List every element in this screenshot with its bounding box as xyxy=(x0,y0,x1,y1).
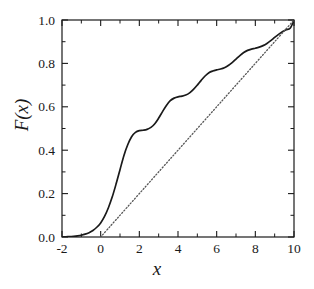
y-tick-label: 0.2 xyxy=(38,186,55,201)
x-tick-label: 2 xyxy=(136,241,143,256)
y-tick-label: 0.0 xyxy=(38,230,55,245)
x-axis-ticks xyxy=(62,20,294,237)
y-tick-label: 1.0 xyxy=(38,13,55,28)
series-linear-reference xyxy=(101,20,294,237)
x-tick-label: 10 xyxy=(287,241,301,256)
y-tick-label: 0.6 xyxy=(38,99,55,114)
x-tick-label: 4 xyxy=(175,241,182,256)
plot-frame xyxy=(62,20,294,237)
data-series-group xyxy=(62,20,294,237)
y-tick-label: 0.8 xyxy=(38,56,55,71)
figure: -20246810 0.00.20.40.60.81.0 F(x) x xyxy=(0,0,314,289)
chart-plot-area: -20246810 0.00.20.40.60.81.0 xyxy=(0,0,314,289)
y-axis-tick-labels: 0.00.20.40.60.81.0 xyxy=(38,13,55,245)
y-axis-label: F(x) xyxy=(11,95,33,135)
x-tick-label: 0 xyxy=(97,241,104,256)
y-tick-label: 0.4 xyxy=(38,143,55,158)
series-staircase-cdf xyxy=(62,20,294,237)
x-axis-tick-labels: -20246810 xyxy=(56,241,301,256)
y-axis-ticks xyxy=(62,20,294,237)
x-tick-label: -2 xyxy=(56,241,67,256)
x-axis-label: x xyxy=(0,258,314,280)
x-tick-label: 6 xyxy=(213,241,220,256)
x-tick-label: 8 xyxy=(252,241,259,256)
